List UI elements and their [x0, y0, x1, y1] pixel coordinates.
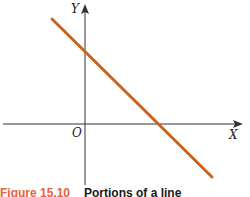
line-diagram: Y X O Figure 15.10Portions of a line	[0, 0, 250, 197]
x-axis-label: X	[229, 128, 238, 142]
figure-caption: Figure 15.10Portions of a line	[0, 186, 181, 197]
line	[52, 19, 212, 177]
origin-label: O	[72, 126, 82, 140]
caption-title: Portions of a line	[84, 186, 181, 197]
caption-number: Figure 15.10	[0, 186, 70, 197]
axes-and-line	[0, 0, 250, 197]
y-axis-label: Y	[71, 2, 79, 16]
